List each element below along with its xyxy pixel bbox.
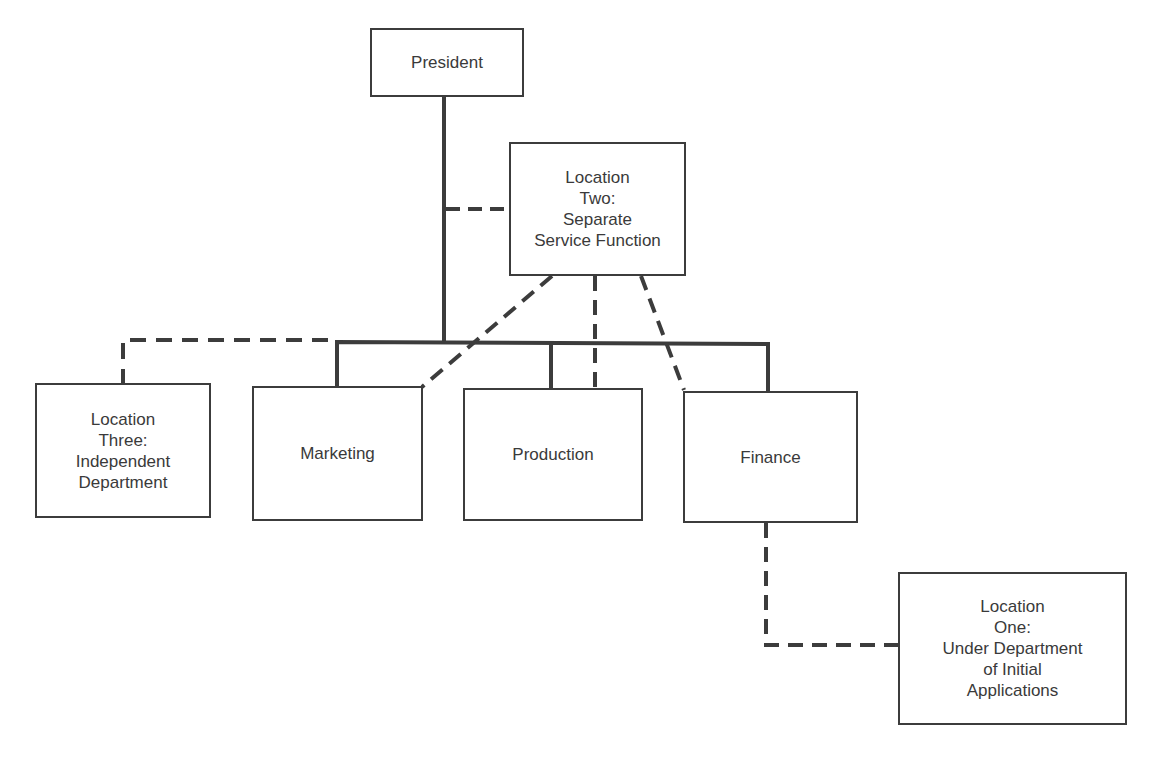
node-location-one: Location One: Under Department of Initia…: [898, 572, 1127, 725]
node-label-production: Production: [512, 444, 593, 465]
cropped-top-text-fragment: [650, 0, 940, 2]
node-production: Production: [463, 388, 643, 521]
node-president: President: [370, 28, 524, 97]
node-finance: Finance: [683, 391, 858, 523]
node-marketing: Marketing: [252, 386, 423, 521]
node-label-president: President: [411, 52, 483, 73]
node-location-three: Location Three: Independent Department: [35, 383, 211, 518]
node-label-marketing: Marketing: [300, 443, 375, 464]
dashed-line-location-two-to-finance: [641, 276, 684, 390]
node-label-location-two: Location Two: Separate Service Function: [534, 167, 661, 251]
dashed-line-location-two-to-marketing: [422, 276, 552, 387]
node-label-location-one: Location One: Under Department of Initia…: [943, 596, 1083, 701]
node-location-two: Location Two: Separate Service Function: [509, 142, 686, 276]
node-label-finance: Finance: [740, 447, 800, 468]
node-label-location-three: Location Three: Independent Department: [76, 409, 171, 493]
dashed-line-finance-to-location-one: [766, 523, 898, 645]
dashed-line-to-location-three: [123, 340, 328, 383]
